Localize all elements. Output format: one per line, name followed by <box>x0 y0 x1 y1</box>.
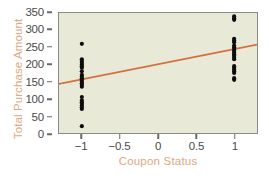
x-tick-mark <box>157 134 159 139</box>
y-tick-label: 0 <box>38 128 44 140</box>
x-tick-label: 0 <box>155 140 161 152</box>
data-point <box>232 37 236 41</box>
y-tick-label: 300 <box>25 23 44 35</box>
data-point-group <box>80 14 236 128</box>
y-tick-mark <box>47 11 52 13</box>
x-axis-tick-group: −1−0.500.51 <box>58 134 258 154</box>
data-point <box>232 14 236 18</box>
regression-line <box>59 45 257 84</box>
data-point <box>80 57 84 61</box>
data-point <box>80 124 84 128</box>
y-tick-label: 100 <box>25 93 44 105</box>
x-tick-label: −1 <box>75 140 88 152</box>
x-tick-mark <box>196 134 198 139</box>
y-tick-mark <box>47 81 52 83</box>
y-tick-mark <box>47 98 52 100</box>
y-tick-mark <box>47 116 52 118</box>
x-tick-mark <box>80 134 82 139</box>
y-tick-label: 250 <box>25 41 44 53</box>
x-axis-title: Coupon Status <box>58 155 258 167</box>
data-point <box>232 64 236 68</box>
data-point <box>232 76 236 80</box>
y-tick-mark <box>47 133 52 135</box>
x-tick-label: −0.5 <box>109 140 131 152</box>
x-tick-label: 0.5 <box>189 140 204 152</box>
y-tick-mark <box>47 29 52 31</box>
y-tick-mark <box>47 46 52 48</box>
y-tick-label: 200 <box>25 58 44 70</box>
data-point <box>80 95 84 99</box>
y-axis-tick-group: 050100150200250300350 <box>0 12 52 134</box>
y-tick-mark <box>47 64 52 66</box>
y-tick-label: 50 <box>32 111 44 123</box>
plot-area <box>58 12 258 134</box>
y-tick-label: 350 <box>25 6 44 18</box>
x-tick-mark <box>119 134 121 139</box>
scatter-plot-figure: Total Purchase Amount 050100150200250300… <box>0 0 269 178</box>
x-tick-label: 1 <box>232 140 238 152</box>
x-tick-mark <box>234 134 236 139</box>
trendline-path <box>59 45 257 84</box>
plot-canvas <box>59 13 257 133</box>
data-point <box>80 42 84 46</box>
y-tick-label: 150 <box>25 76 44 88</box>
